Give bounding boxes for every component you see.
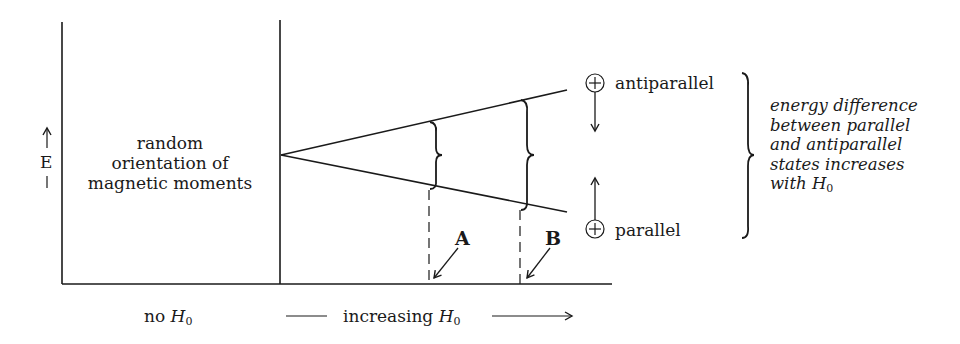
antiparallel-label: antiparallel: [615, 73, 714, 93]
random-orientation-line-3: magnetic moments: [75, 173, 265, 193]
arrow-a-icon: [434, 248, 458, 278]
random-orientation-line-2: orientation of: [75, 153, 265, 173]
brace-b-icon: [521, 100, 534, 210]
random-orientation-line-1: random: [75, 133, 265, 153]
parallel-energy-line: [281, 155, 567, 212]
brace-a-icon: [430, 122, 442, 189]
parallel-label: parallel: [615, 220, 681, 240]
increasing-h0-label: increasing H0: [343, 306, 460, 332]
antiparallel-energy-line: [281, 90, 567, 155]
arrow-b-icon: [527, 248, 550, 278]
energy-difference-note: energy difference between parallel and a…: [770, 96, 918, 199]
no-h0-label: no H0: [144, 306, 192, 332]
energy-axis-label: E: [40, 152, 52, 172]
marker-b-label: B: [545, 228, 561, 248]
marker-a-label: A: [455, 228, 470, 248]
large-brace-icon: [742, 73, 754, 238]
